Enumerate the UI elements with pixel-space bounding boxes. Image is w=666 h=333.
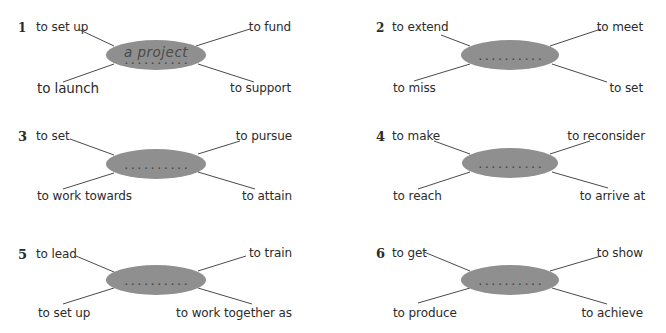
collocate-top-right: to pursue (236, 129, 292, 143)
item-number: 4 (376, 130, 385, 144)
collocate-top-left: to set (36, 129, 70, 143)
collocate-top-left: to make (392, 129, 440, 143)
collocate-top-right: to fund (249, 20, 291, 34)
item-number: 1 (18, 21, 26, 35)
collocate-bottom-right: to set (609, 81, 643, 95)
collocate-bottom-right: to work together as (176, 306, 292, 320)
answer-blank[interactable]: .......... (112, 277, 200, 287)
collocate-bottom-left: to set up (38, 306, 90, 320)
collocate-bottom-left: to miss (393, 81, 436, 95)
collocate-top-left: to lead (36, 247, 77, 261)
collocate-bottom-right: to support (230, 81, 291, 95)
collocate-bottom-left: to reach (393, 189, 442, 203)
spidergram-graphics (0, 0, 666, 333)
collocate-top-left: to get (392, 246, 427, 260)
item-number: 2 (376, 21, 384, 35)
collocate-top-right: to train (249, 246, 292, 260)
collocation-exercise: 1 to set up to fund to launch to support… (0, 0, 666, 333)
answer-blank[interactable]: .......... (112, 161, 200, 171)
collocate-bottom-right: to attain (242, 189, 292, 203)
collocate-top-left: to set up (36, 20, 88, 34)
item-number: 3 (18, 130, 27, 144)
collocate-top-right: to reconsider (567, 129, 645, 143)
collocate-top-right: to show (597, 246, 643, 260)
collocate-bottom-left: to produce (393, 306, 457, 320)
collocate-top-left: to extend (392, 20, 449, 34)
collocate-bottom-left: to work towards (37, 189, 132, 203)
answer-blank[interactable]: .......... (466, 52, 554, 62)
collocate-bottom-right: to achieve (581, 306, 643, 320)
collocate-bottom-left: to launch (37, 81, 99, 95)
answer-blank[interactable]: .......... (466, 160, 554, 170)
answer-blank[interactable]: .......... (466, 277, 554, 287)
answer-underline-dots: .......... (112, 56, 200, 66)
item-number: 5 (18, 248, 27, 262)
collocate-bottom-right: to arrive at (580, 189, 645, 203)
item-number: 6 (376, 247, 385, 261)
collocate-top-right: to meet (597, 20, 643, 34)
